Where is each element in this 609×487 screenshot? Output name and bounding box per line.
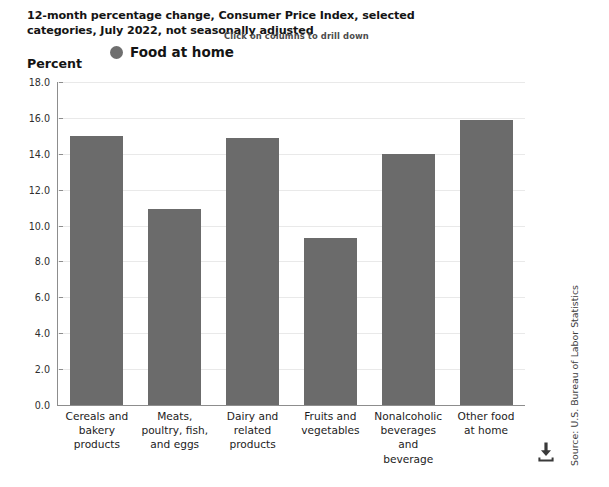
- bar-column[interactable]: [136, 82, 214, 405]
- bar-column[interactable]: [214, 82, 292, 405]
- y-axis-tick-label: 0.0: [8, 400, 50, 411]
- bar-column[interactable]: [291, 82, 369, 405]
- x-axis-tick-label: Other foodat home: [447, 409, 525, 437]
- download-icon[interactable]: [536, 441, 556, 463]
- y-axis-tick-label: 12.0: [8, 184, 50, 195]
- y-axis-tick-label: 6.0: [8, 292, 50, 303]
- bar[interactable]: [460, 120, 513, 405]
- x-axis-tick-label: Dairy andrelatedproducts: [214, 409, 292, 452]
- bar[interactable]: [382, 154, 435, 405]
- y-axis-tick-label: 18.0: [8, 77, 50, 88]
- y-axis-tick-label: 4.0: [8, 328, 50, 339]
- bar[interactable]: [304, 238, 357, 405]
- plot-wrapper: 18.016.014.012.010.08.06.04.02.00.0 Cere…: [0, 0, 609, 487]
- source-note: Source: U.S. Bureau of Labor Statistics: [569, 285, 580, 466]
- bar-column[interactable]: [447, 82, 525, 405]
- bar[interactable]: [70, 136, 123, 405]
- x-axis-tick-label: Cereals andbakeryproducts: [58, 409, 136, 452]
- y-axis-tick-labels: 18.016.014.012.010.08.06.04.02.00.0: [6, 82, 50, 405]
- y-axis-tick-label: 8.0: [8, 256, 50, 267]
- x-axis-tick-label: Nonalcoholicbeveragesandbeverage: [369, 409, 447, 466]
- x-axis-tick-label: Fruits andvegetables: [291, 409, 369, 437]
- x-axis-line: [57, 405, 525, 406]
- bars-group: [58, 82, 525, 405]
- cpi-bar-chart: 12-month percentage change, Consumer Pri…: [0, 0, 609, 487]
- y-axis-tick-label: 10.0: [8, 220, 50, 231]
- bar[interactable]: [148, 209, 201, 405]
- x-axis-tick-labels: Cereals andbakeryproductsMeats,poultry, …: [58, 409, 525, 466]
- y-axis-tick-label: 14.0: [8, 148, 50, 159]
- y-axis-tick-label: 16.0: [8, 112, 50, 123]
- bar[interactable]: [226, 138, 279, 405]
- bar-column[interactable]: [369, 82, 447, 405]
- y-axis-tick-label: 2.0: [8, 364, 50, 375]
- x-axis-tick-label: Meats,poultry, fish,and eggs: [136, 409, 214, 452]
- bar-column[interactable]: [58, 82, 136, 405]
